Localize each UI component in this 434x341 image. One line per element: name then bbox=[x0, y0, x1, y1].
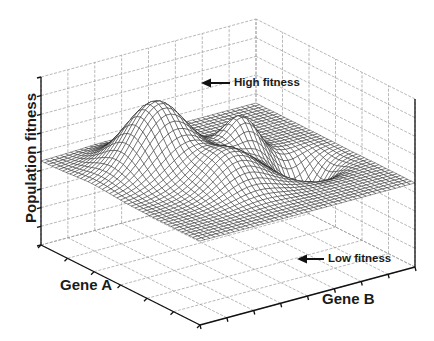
x-axis-label: Gene A bbox=[60, 276, 112, 293]
y-axis-label: Gene B bbox=[322, 290, 375, 307]
annotation-high-fitness: High fitness bbox=[234, 76, 300, 88]
z-axis-label: Population fitness bbox=[22, 93, 39, 223]
fitness-surface-mesh bbox=[41, 101, 415, 241]
surface-plot-figure: Population fitness Gene A Gene B High fi… bbox=[0, 0, 434, 341]
annotation-low-fitness: Low fitness bbox=[328, 252, 391, 264]
